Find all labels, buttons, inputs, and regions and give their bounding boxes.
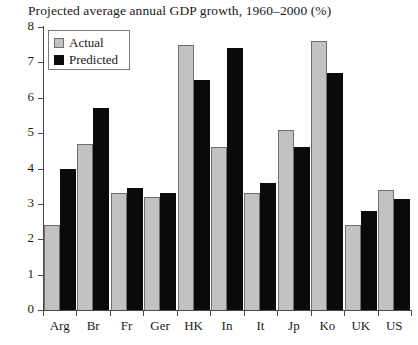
bar-group [278, 27, 310, 310]
bar-actual [144, 197, 160, 310]
chart-title: Projected average annual GDP growth, 196… [28, 3, 331, 19]
x-axis-tick-label: In [210, 318, 243, 334]
bar-group [211, 27, 243, 310]
bar-actual [345, 225, 361, 310]
x-axis-tick-mark [143, 310, 144, 316]
bar-actual [211, 147, 227, 310]
legend-swatch-actual [54, 38, 64, 48]
y-axis-tick-label: 0 [28, 302, 35, 315]
bar-actual [244, 193, 260, 310]
bar-group [144, 27, 176, 310]
bar-predicted [227, 48, 243, 310]
x-axis-tick-mark [411, 310, 412, 316]
x-axis-tick-mark [177, 310, 178, 316]
bar-group [311, 27, 343, 310]
bar-predicted [327, 73, 343, 310]
gdp-growth-bar-chart: Projected average annual GDP growth, 196… [0, 0, 418, 345]
bar-actual [111, 193, 127, 310]
x-axis-tick-label: Arg [43, 318, 76, 334]
bar-group [178, 27, 210, 310]
x-axis-tick-mark [344, 310, 345, 316]
bar-actual [378, 190, 394, 310]
bar-actual [178, 45, 194, 310]
x-axis-line [43, 310, 412, 311]
bar-predicted [60, 169, 76, 311]
chart-legend: ActualPredicted [48, 30, 130, 70]
bar-group [244, 27, 276, 310]
x-axis-tick-mark [76, 310, 77, 316]
x-axis-tick-label: Jp [277, 318, 310, 334]
y-axis-tick-label: 8 [28, 19, 35, 32]
x-axis-tick-label: Ko [311, 318, 344, 334]
x-axis-tick-mark [311, 310, 312, 316]
legend-label: Actual [69, 36, 104, 49]
x-axis-tick-label: Br [76, 318, 109, 334]
bar-group [345, 27, 377, 310]
bar-actual [278, 130, 294, 310]
x-axis-tick-label: Fr [110, 318, 143, 334]
y-axis-tick-label: 2 [28, 231, 35, 244]
y-axis-tick-label: 6 [28, 90, 35, 103]
x-axis-tick-mark [244, 310, 245, 316]
x-axis-tick-label: US [378, 318, 411, 334]
x-axis-tick-mark [277, 310, 278, 316]
legend-entry: Predicted [54, 51, 129, 68]
bar-predicted [361, 211, 377, 310]
y-axis-tick-label: 5 [28, 125, 35, 138]
bar-predicted [294, 147, 310, 310]
bar-predicted [394, 199, 410, 310]
legend-label: Predicted [69, 53, 118, 66]
bar-actual [77, 144, 93, 310]
bar-predicted [93, 108, 109, 310]
legend-entry: Actual [54, 34, 129, 51]
y-axis-tick-label: 4 [28, 161, 35, 174]
y-axis-tick-label: 3 [28, 196, 35, 209]
x-axis-tick-mark [378, 310, 379, 316]
bar-actual [311, 41, 327, 310]
x-axis-tick-mark [43, 310, 44, 316]
bar-predicted [194, 80, 210, 310]
y-axis-tick-label: 1 [28, 267, 35, 280]
bar-actual [44, 225, 60, 310]
y-axis-tick-label: 7 [28, 54, 35, 67]
x-axis-tick-label: Ger [143, 318, 176, 334]
x-axis-tick-label: It [244, 318, 277, 334]
bar-group [378, 27, 410, 310]
x-axis-tick-label: HK [177, 318, 210, 334]
bar-predicted [127, 188, 143, 310]
x-axis-tick-mark [210, 310, 211, 316]
bar-predicted [160, 193, 176, 310]
legend-swatch-predicted [54, 55, 64, 65]
x-axis-tick-label: UK [344, 318, 377, 334]
bar-predicted [260, 183, 276, 310]
x-axis-tick-mark [110, 310, 111, 316]
